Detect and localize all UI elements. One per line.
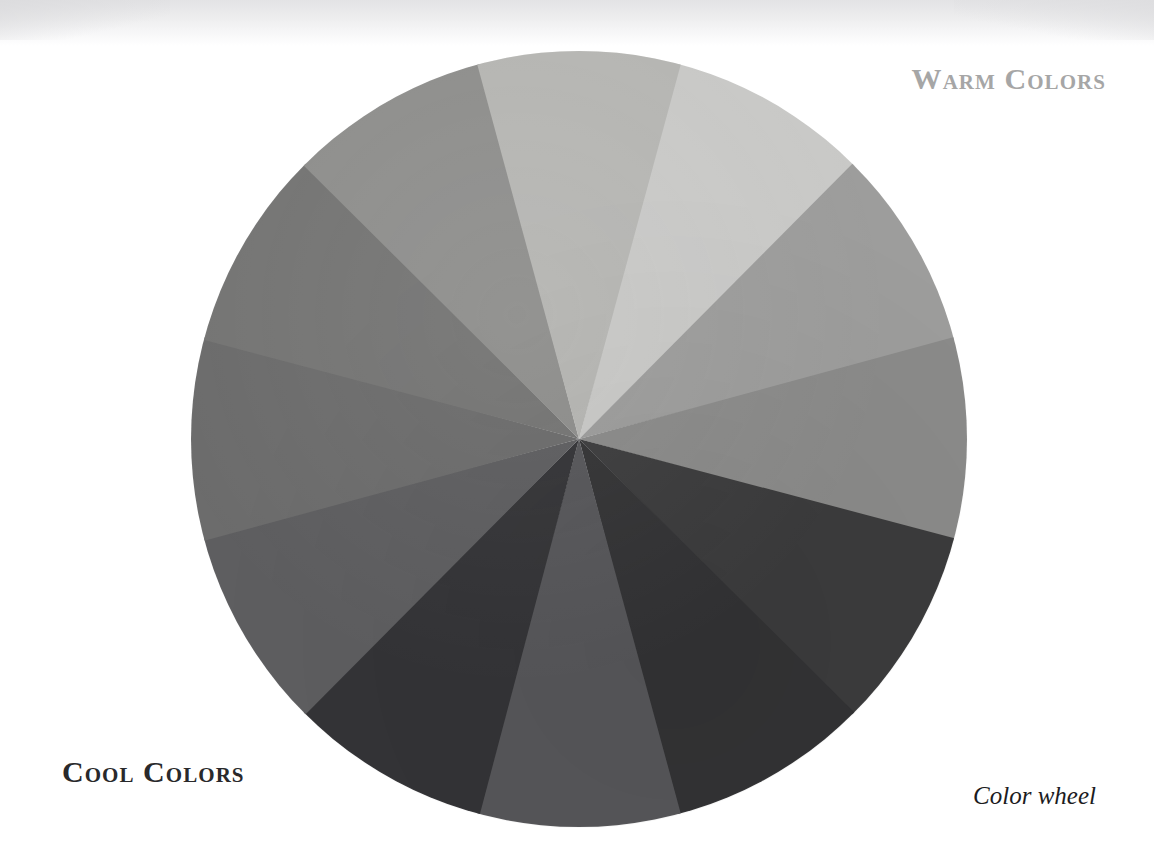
color-wheel xyxy=(190,50,968,828)
page-top-shading-left xyxy=(0,0,170,40)
cool-colors-label: Cool Colors xyxy=(62,755,245,789)
warm-colors-label: Warm Colors xyxy=(912,62,1106,96)
wheel-segments xyxy=(190,50,968,828)
page-top-shading-right xyxy=(954,0,1154,40)
figure-caption: Color wheel xyxy=(973,782,1096,810)
page-top-shading xyxy=(0,0,1154,46)
color-wheel-svg xyxy=(190,50,968,828)
color-wheel-figure: Warm Colors Cool Colors Color wheel xyxy=(0,0,1154,864)
